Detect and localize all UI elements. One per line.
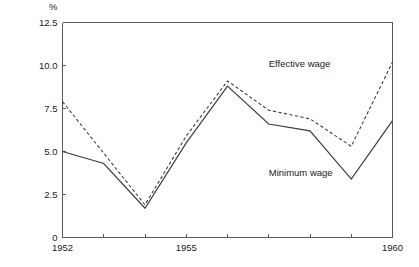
- y-tick-label-5: 12.5: [39, 17, 58, 28]
- labels-layer: 02.55.07.510.012.5%195219551960Effective…: [39, 1, 403, 253]
- y-tick-label-2: 5.0: [44, 146, 57, 157]
- series-layer: [63, 62, 393, 208]
- series-line-effective-wage: [63, 62, 393, 205]
- annotation-minimum-wage: Minimum wage: [269, 167, 333, 178]
- x-tick-label-0: 1952: [52, 242, 73, 253]
- y-tick-label-3: 7.5: [44, 103, 57, 114]
- y-axis-unit-label: %: [49, 1, 58, 12]
- x-tick-label-3: 1955: [176, 242, 197, 253]
- series-line-minimum-wage: [63, 86, 393, 208]
- y-tick-label-4: 10.0: [39, 60, 58, 71]
- y-tick-label-1: 2.5: [44, 189, 57, 200]
- annotation-effective-wage: Effective wage: [269, 58, 331, 69]
- x-tick-label-8: 1960: [382, 242, 403, 253]
- line-chart: 02.55.07.510.012.5%195219551960Effective…: [0, 0, 419, 267]
- axes-layer: [63, 23, 393, 238]
- chart-container: 02.55.07.510.012.5%195219551960Effective…: [0, 0, 419, 267]
